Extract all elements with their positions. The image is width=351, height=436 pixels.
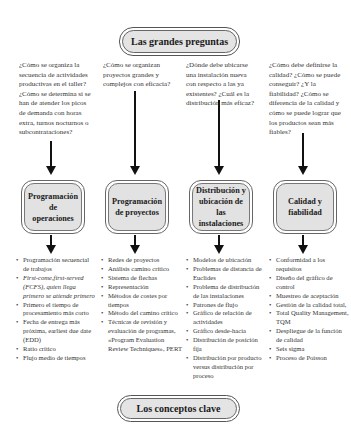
arrow-1-head-top xyxy=(46,166,56,175)
topic-box-2: Programación de proyectos xyxy=(105,180,169,234)
footer-title: Los conceptos clave xyxy=(120,398,237,419)
concept-item: Gráfico desde-hacia xyxy=(186,327,266,336)
concept-item: Métodos de costes por tiempos xyxy=(101,292,183,310)
concept-item: Flujo medio de tiempos xyxy=(16,354,96,363)
topic-4: Calidad y fiabilidad xyxy=(276,183,334,231)
concept-item: Gestión de la calidad total, xyxy=(269,301,349,310)
concept-item: Técnicas de revisión y evaluación de pro… xyxy=(101,318,183,354)
concept-item: Distribución de posición fija xyxy=(186,336,266,354)
concept-item: Ratio crítico xyxy=(16,345,96,354)
concept-item: Distribución por producto versus distrib… xyxy=(186,354,266,381)
concept-item: First-come,first-served (FCFS), quien ll… xyxy=(16,274,96,301)
concept-item: Total Quality Management, TQM xyxy=(269,309,349,327)
arrow-2-head-bottom xyxy=(130,245,140,254)
topic-3: Distribución y ubicación de las instalac… xyxy=(192,183,250,231)
header-pill: Las grandes preguntas xyxy=(119,27,240,56)
arrow-4-head-bottom xyxy=(298,245,308,254)
question-4: ¿Cómo debe definirse la calidad? ¿Cómo s… xyxy=(269,61,343,138)
concept-item: Muestreo de aceptación xyxy=(269,292,349,301)
footer-pill: Los conceptos clave xyxy=(117,395,240,422)
concept-item: Problemas de distancia de Euclides xyxy=(186,265,266,283)
question-3: ¿Dónde debe ubicarse una instalación nue… xyxy=(186,61,258,109)
arrow-2-head-top xyxy=(130,166,140,175)
concept-item: Fecha de entrega más próxima, earliest d… xyxy=(16,318,96,345)
arrow-1-head-bottom xyxy=(46,245,56,254)
concept-item: Análisis camino crítico xyxy=(101,265,183,274)
concepts-list-1: Programación secuencial de trabajos Firs… xyxy=(16,256,96,363)
arrow-2-line-top xyxy=(134,91,136,170)
arrow-3-head-bottom xyxy=(214,245,224,254)
concept-item: Patrones de flujo xyxy=(186,301,266,310)
arrow-3-head-top xyxy=(214,166,224,175)
concept-item: Proceso de Poisson xyxy=(269,354,349,363)
concept-item: Programación secuencial de trabajos xyxy=(16,256,96,274)
arrow-3-line-top xyxy=(218,100,220,170)
concept-item: Sistema de flechas xyxy=(101,274,183,283)
arrow-4-head-top xyxy=(298,166,308,175)
concept-item: Representación xyxy=(101,283,183,292)
topic-2: Programación de proyectos xyxy=(108,183,166,231)
concept-item: Modelos de ubicación xyxy=(186,256,266,265)
topic-1: Programación de operaciones xyxy=(24,183,82,231)
concept-item: Despliegue de la función de calidad xyxy=(269,327,349,345)
arrow-4-line-top xyxy=(302,133,304,170)
concept-item: Conformidad a los requisitos xyxy=(269,256,349,274)
concept-item: Primero el tiempo de procesamiento más c… xyxy=(16,301,96,319)
concepts-list-4: Conformidad a los requisitos Diseño del … xyxy=(269,256,349,363)
concept-item: Gráfico de relación de actividades xyxy=(186,309,266,327)
concept-item: Redes de proyectos xyxy=(101,256,183,265)
concepts-list-2: Redes de proyectos Análisis camino críti… xyxy=(101,256,183,354)
concepts-list-3: Modelos de ubicación Problemas de distan… xyxy=(186,256,266,381)
concept-item: Problema de distribución de las instalac… xyxy=(186,283,266,301)
concept-item: Seis sigma xyxy=(269,345,349,354)
question-2: ¿Cómo se organizan proyectos grandes y c… xyxy=(103,61,175,90)
header-title: Las grandes preguntas xyxy=(122,30,237,53)
concept-item: Método del camino crítico xyxy=(101,309,183,318)
question-1: ¿Cómo se organiza la secuencia de activi… xyxy=(19,61,91,138)
concept-item: Diseño del gráfico de control xyxy=(269,274,349,292)
topic-box-4: Calidad y fiabilidad xyxy=(273,180,337,234)
topic-box-3: Distribución y ubicación de las instalac… xyxy=(189,180,253,234)
topic-box-1: Programación de operaciones xyxy=(21,180,85,234)
